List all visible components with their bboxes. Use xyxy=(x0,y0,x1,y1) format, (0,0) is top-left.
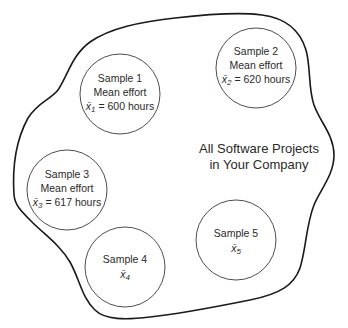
sample-3-title: Sample 3 xyxy=(45,168,90,180)
sample-1: Sample 1 Mean effort x̄1 = 600 hours xyxy=(80,54,160,134)
sample-1-mean: x̄1 = 600 hours xyxy=(85,100,154,114)
sample-1-subtitle: Mean effort xyxy=(94,86,147,98)
sample-3-subtitle: Mean effort xyxy=(41,182,94,194)
mean-value: = 617 hours xyxy=(43,196,102,208)
xbar-index: 5 xyxy=(236,247,241,256)
mean-value: = 600 hours xyxy=(96,100,155,112)
sample-3-mean: x̄3 = 617 hours xyxy=(32,196,101,210)
sample-2: Sample 2 Mean effort x̄2 = 620 hours xyxy=(216,28,296,108)
sampling-diagram: All Software Projects in Your Company Sa… xyxy=(0,0,348,328)
sample-2-mean: x̄2 = 620 hours xyxy=(221,73,290,87)
sample-5: Sample 5 x̄5 xyxy=(196,200,276,280)
sample-1-title: Sample 1 xyxy=(98,72,143,84)
mean-value: = 620 hours xyxy=(232,73,291,85)
xbar-index: 4 xyxy=(125,273,130,282)
sample-5-title: Sample 5 xyxy=(214,227,259,239)
sample-2-title: Sample 2 xyxy=(234,45,279,57)
sample-5-circle xyxy=(196,200,276,280)
sample-4: Sample 4 x̄4 xyxy=(85,227,165,307)
population-label-line2: in Your Company xyxy=(209,157,309,172)
sample-4-circle xyxy=(85,227,165,307)
sample-3: Sample 3 Mean effort x̄3 = 617 hours xyxy=(27,150,107,230)
population-label-line1: All Software Projects xyxy=(199,141,319,156)
sample-2-subtitle: Mean effort xyxy=(230,59,283,71)
sample-4-title: Sample 4 xyxy=(103,253,148,265)
